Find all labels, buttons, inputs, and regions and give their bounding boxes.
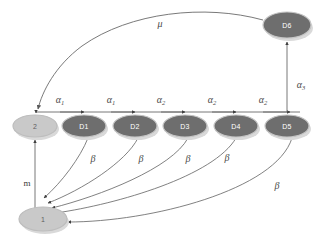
node-d4-label: D4	[231, 123, 240, 130]
edge-path-beta-3	[52, 138, 188, 208]
edge-label-alpha1-b: α1	[107, 94, 116, 106]
edge-d6-to-2	[38, 12, 263, 109]
node-2-label: 2	[33, 123, 37, 130]
node-d6[interactable]: D6	[263, 12, 313, 41]
node-d2[interactable]: D2	[113, 115, 159, 140]
node-d6-label: D6	[282, 22, 291, 29]
edge-d2-to-1	[48, 138, 138, 203]
edge-label-alpha2-b: α2	[208, 94, 217, 106]
edge-label-mu: μ	[156, 18, 162, 29]
node-d1[interactable]: D1	[62, 115, 108, 140]
node-d4[interactable]: D4	[214, 115, 260, 140]
node-2[interactable]: 2	[13, 115, 59, 140]
state-transition-diagram: 1 2 D1 D2 D3 D4 D5 D6	[0, 0, 324, 252]
edge-d5-to-1	[68, 138, 292, 222]
edge-label-m: m	[23, 178, 30, 188]
node-1-label: 1	[41, 216, 45, 223]
node-d2-label: D2	[130, 123, 139, 130]
edge-path-beta-1	[44, 138, 88, 198]
edge-path-beta-2	[48, 138, 138, 203]
edge-label-alpha1-a: α1	[56, 94, 65, 106]
edge-label-alpha2-a: α2	[157, 94, 166, 106]
edge-d3-to-1	[52, 138, 188, 208]
edge-path-mu	[38, 12, 263, 109]
node-d3[interactable]: D3	[163, 115, 209, 140]
edge-path-beta-5	[68, 138, 292, 222]
edge-label-beta-1: β	[90, 153, 96, 164]
edge-label-alpha2-c: α2	[259, 94, 268, 106]
node-1[interactable]: 1	[19, 207, 69, 234]
node-d5[interactable]: D5	[265, 115, 311, 140]
edge-label-beta-4: β	[224, 152, 230, 163]
node-d1-label: D1	[79, 123, 88, 130]
edge-label-beta-2: β	[138, 153, 144, 164]
node-d5-label: D5	[282, 123, 291, 130]
edge-label-alpha3: α3	[297, 79, 306, 91]
edge-label-beta-3: β	[185, 153, 191, 164]
edge-label-beta-5: β	[274, 180, 280, 191]
node-d3-label: D3	[180, 123, 189, 130]
edge-d1-to-1	[44, 138, 88, 198]
